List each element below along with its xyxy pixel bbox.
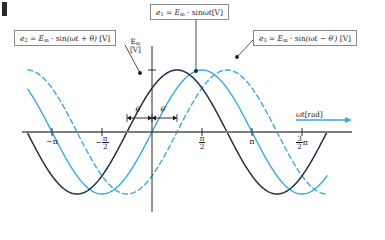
leader-e1 [194, 20, 198, 73]
callout-e2-eq: = [30, 34, 36, 43]
callout-e1-unit: [V] [212, 8, 223, 17]
x-axis-label-unit: [rad] [305, 110, 323, 119]
callout-e3-eq: = [269, 34, 275, 43]
callout-e2-fn: sin [56, 34, 67, 43]
angle-label-theta-prime: θ′ [161, 105, 167, 114]
sine-wave-phase-diagram: e1 = Em · sinωt[V] e2 = Em · sin(ωt + θ)… [0, 0, 385, 240]
angle-label-theta: θ [135, 105, 139, 114]
leader-e3 [235, 40, 253, 59]
callout-e3-fn: sin [295, 34, 306, 43]
corner-mark [2, 2, 7, 16]
callout-e3-arg: (ωt − θ′) [306, 34, 338, 43]
callout-e1-dot: · [187, 8, 189, 17]
callout-e3-dot: · [290, 34, 292, 43]
callout-e2-dot: · [51, 34, 53, 43]
callout-e1-fn: sin [192, 8, 203, 17]
x-tick-label-0: −π [40, 137, 64, 146]
callout-e3-lhs-sub: 3 [263, 37, 266, 43]
callout-e2-arg: (ωt + θ) [67, 34, 97, 43]
x-tick-label-2: π2 [188, 135, 216, 150]
callout-e3-amp-sub: m [283, 37, 288, 43]
x-axis-label-sym: ωt [296, 110, 305, 119]
x-tick-label-4: 32π [288, 135, 316, 150]
callout-e3-unit: [V] [340, 34, 351, 43]
x-tick-label-3: π [240, 137, 264, 146]
callout-e1: e1 = Em · sinωt[V] [150, 4, 229, 20]
x-tick-label-1: −π2 [88, 135, 116, 150]
callout-e3: e3 = Em · sin(ωt − θ′) [V] [253, 30, 357, 46]
x-axis-label: ωt[rad] [296, 110, 323, 119]
callout-e2: e2 = Em · sin(ωt + θ) [V] [14, 30, 116, 46]
y-axis-label: Em [V] [130, 38, 141, 54]
callout-e2-lhs-sub: 2 [24, 37, 27, 43]
callout-e1-arg: ωt [203, 8, 212, 17]
callout-e2-unit: [V] [99, 34, 110, 43]
y-axis-label-unit: [V] [130, 45, 141, 54]
callout-e1-eq: = [166, 8, 172, 17]
callout-e2-amp-sub: m [44, 37, 49, 43]
callout-e1-lhs-sub: 1 [160, 11, 163, 17]
callout-e1-amp-sub: m [180, 11, 185, 17]
angle-arrows [127, 114, 177, 122]
